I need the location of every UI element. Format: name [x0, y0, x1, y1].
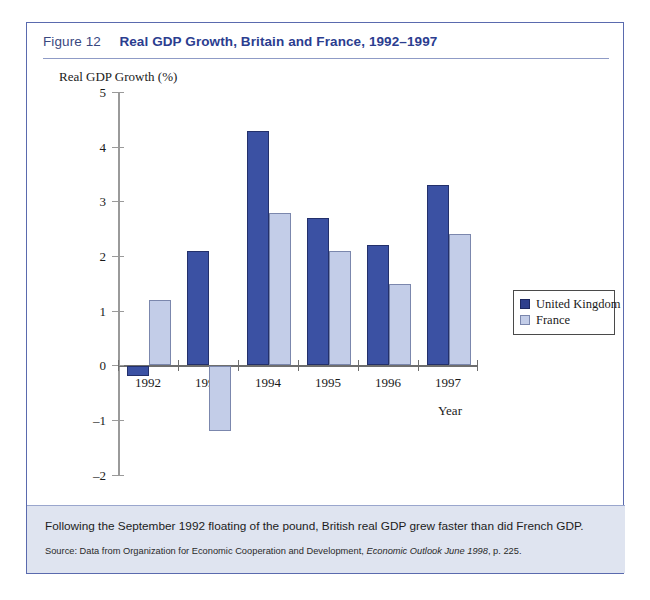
y-tick-label-4: 4 [72, 140, 106, 156]
x-tick-label-1995: 1995 [298, 375, 358, 391]
y-tick-neg1 [112, 420, 124, 421]
legend-swatch-uk-icon [520, 299, 530, 309]
y-axis-line [118, 92, 120, 476]
y-tick-4 [112, 147, 124, 148]
y-tick-label-3: 3 [72, 194, 106, 210]
x-tick-label-1994: 1994 [238, 375, 298, 391]
x-tick-label-1996: 1996 [358, 375, 418, 391]
x-tick-end [477, 360, 478, 371]
x-tick-2 [238, 360, 239, 371]
legend-item-france: France [520, 312, 608, 328]
caption-block: Following the September 1992 floating of… [27, 505, 625, 573]
figure-caption: Following the September 1992 floating of… [45, 519, 607, 534]
bar-france-1992 [149, 300, 171, 366]
x-axis-title: Year [438, 403, 462, 419]
source-prefix: Source: Data from Organization for Econo… [45, 546, 366, 556]
source-suffix: , p. 225. [488, 546, 522, 556]
x-tick-start [118, 360, 119, 371]
bar-united-kingdom-1992 [127, 366, 149, 377]
bar-united-kingdom-1994 [247, 131, 269, 366]
y-tick-label-0: 0 [72, 358, 106, 374]
bar-france-1994 [269, 213, 291, 366]
figure-frame: Figure 12 Real GDP Growth, Britain and F… [26, 22, 624, 574]
legend-swatch-france-icon [520, 315, 530, 325]
bar-france-1993 [209, 366, 231, 432]
figure-label: Figure 12 [43, 34, 101, 49]
bar-united-kingdom-1996 [367, 245, 389, 365]
y-axis-title: Real GDP Growth (%) [59, 69, 177, 85]
bar-united-kingdom-1997 [427, 185, 449, 365]
y-tick-neg2 [112, 475, 124, 476]
y-tick-3 [112, 201, 124, 202]
bar-france-1995 [329, 251, 351, 366]
figure-title: Real GDP Growth, Britain and France, 199… [119, 34, 437, 49]
y-tick-label-1: 1 [72, 304, 106, 320]
x-tick-1 [178, 360, 179, 371]
y-tick-1 [112, 311, 124, 312]
y-tick-label-neg1: –1 [72, 413, 106, 429]
x-tick-4 [358, 360, 359, 371]
bar-united-kingdom-1995 [307, 218, 329, 365]
y-tick-label-2: 2 [72, 249, 106, 265]
figure-source: Source: Data from Organization for Econo… [45, 545, 607, 557]
y-tick-5 [112, 92, 124, 93]
chart-legend: United Kingdom France [513, 290, 615, 335]
bar-united-kingdom-1993 [187, 251, 209, 366]
y-tick-label-5: 5 [72, 85, 106, 101]
bar-france-1996 [389, 284, 411, 366]
y-tick-label-neg2: –2 [72, 468, 106, 484]
x-tick-label-1992: 1992 [118, 375, 178, 391]
source-italic: Economic Outlook June 1998 [366, 546, 487, 556]
x-tick-3 [298, 360, 299, 371]
chart-plot-area: Real GDP Growth (%) 5 4 3 2 1 0 –1 –2 19… [27, 59, 625, 503]
x-tick-label-1997: 1997 [418, 375, 478, 391]
legend-label-uk: United Kingdom [536, 297, 620, 312]
legend-label-france: France [536, 313, 570, 328]
x-tick-5 [418, 360, 419, 371]
legend-item-united-kingdom: United Kingdom [520, 296, 608, 312]
bar-france-1997 [449, 234, 471, 365]
y-tick-2 [112, 256, 124, 257]
figure-header: Figure 12 Real GDP Growth, Britain and F… [27, 23, 623, 59]
